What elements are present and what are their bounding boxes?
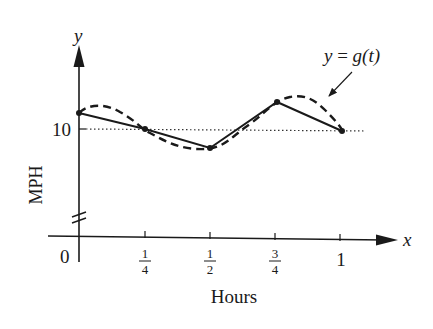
chart: y x 0 10 MPH Hours 1 4 1 2 3 4 1 y = g(t…: [0, 0, 433, 329]
y-axis: [72, 45, 86, 262]
tick-denominator: 4: [142, 262, 149, 277]
tick-denominator: 2: [207, 262, 214, 277]
tick-label-1-4: 1 4: [139, 246, 151, 277]
solid-polyline: [79, 102, 342, 148]
y-axis-arrow-icon: [74, 45, 85, 67]
y-axis-symbol: y: [72, 25, 83, 46]
curve-label-g: g: [353, 45, 363, 66]
reference-line-10: [86, 129, 366, 131]
curve-label-eq: =: [332, 45, 352, 66]
tick-numerator: 1: [142, 246, 149, 261]
curve-label-args: (t): [362, 45, 380, 67]
x-axis-arrow-icon: [376, 235, 398, 246]
annotation-arrow-icon: [329, 72, 352, 96]
tick-label-3-4: 3 4: [269, 246, 281, 277]
curve-label-y: y: [322, 45, 333, 66]
tick-label-1: 1: [336, 249, 346, 270]
data-point: [274, 99, 280, 105]
tick-label-1-2: 1 2: [204, 246, 216, 277]
tick-numerator: 3: [272, 246, 279, 261]
x-axis-title: Hours: [211, 286, 257, 307]
data-point: [142, 126, 148, 132]
origin-label: 0: [60, 246, 70, 267]
x-axis: [48, 231, 398, 246]
data-points: [76, 99, 345, 151]
data-point: [76, 110, 82, 116]
tick-denominator: 4: [272, 262, 279, 277]
y-axis-title: MPH: [26, 165, 46, 204]
x-axis-symbol: x: [402, 229, 412, 250]
y-tick-label-10: 10: [52, 119, 71, 140]
curve-label: y = g(t): [322, 45, 380, 67]
data-point: [339, 128, 345, 134]
tick-numerator: 1: [207, 246, 214, 261]
data-point: [207, 145, 213, 151]
